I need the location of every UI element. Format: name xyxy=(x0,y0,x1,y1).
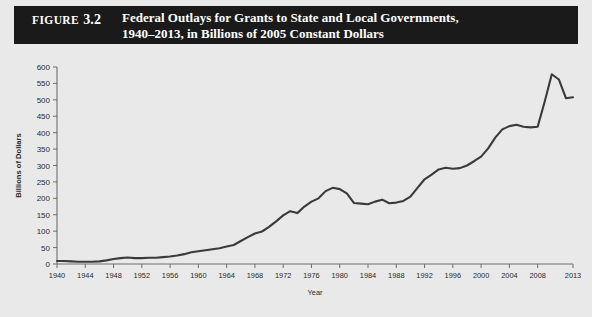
x-tick-label: 1968 xyxy=(247,271,263,280)
figure-number: 3.2 xyxy=(83,12,101,27)
x-tick-label: 1944 xyxy=(77,271,93,280)
x-tick-label: 1972 xyxy=(275,271,291,280)
y-tick-label: 200 xyxy=(37,194,51,203)
x-tick-label: 1984 xyxy=(360,271,376,280)
y-tick-label: 150 xyxy=(37,211,51,220)
y-tick-label: 550 xyxy=(37,79,51,88)
line-chart: 050100150200250300350400450500550600 194… xyxy=(0,44,592,317)
y-tick-label: 500 xyxy=(37,96,51,105)
x-tick-label: 1956 xyxy=(162,271,178,280)
x-tick-label: 1940 xyxy=(49,271,65,280)
x-tick-label: 1980 xyxy=(332,271,348,280)
x-tick-label: 2013 xyxy=(565,271,581,280)
y-tick-label: 0 xyxy=(46,260,51,269)
figure-page: Figure3.2 Federal Outlays for Grants to … xyxy=(0,0,592,317)
x-tick-label: 1976 xyxy=(303,271,319,280)
y-tick-label: 350 xyxy=(37,145,51,154)
y-axis-ticks: 050100150200250300350400450500550600 xyxy=(37,63,57,269)
x-axis-ticks: 1940194419481952195619601964196819721976… xyxy=(49,264,581,280)
figure-label: Figure3.2 xyxy=(32,12,101,28)
x-tick-label: 1964 xyxy=(218,271,234,280)
y-tick-label: 50 xyxy=(41,244,50,253)
figure-title-line-2: 1940–2013, in Billions of 2005 Constant … xyxy=(122,26,570,42)
x-tick-label: 1960 xyxy=(190,271,206,280)
x-tick-label: 1948 xyxy=(105,271,121,280)
y-tick-label: 450 xyxy=(37,112,51,121)
x-tick-label: 1996 xyxy=(445,271,461,280)
x-tick-label: 2008 xyxy=(529,271,545,280)
x-axis-title: Year xyxy=(308,288,323,297)
figure-header-bar: Figure3.2 Federal Outlays for Grants to … xyxy=(14,6,578,44)
figure-title-line-1: Federal Outlays for Grants to State and … xyxy=(122,10,570,26)
x-tick-label: 2004 xyxy=(501,271,517,280)
x-tick-label: 1952 xyxy=(134,271,150,280)
y-tick-label: 100 xyxy=(37,227,51,236)
y-tick-label: 400 xyxy=(37,129,51,138)
x-tick-label: 2000 xyxy=(473,271,489,280)
x-tick-label: 1992 xyxy=(416,271,432,280)
y-tick-label: 600 xyxy=(37,63,51,72)
y-axis-title: Billions of Dollars xyxy=(14,133,23,198)
data-series-line xyxy=(57,74,573,261)
plot-area: 050100150200250300350400450500550600 194… xyxy=(0,44,592,317)
y-tick-label: 300 xyxy=(37,162,51,171)
x-tick-label: 1988 xyxy=(388,271,404,280)
figure-title: Federal Outlays for Grants to State and … xyxy=(122,10,570,41)
figure-label-word: Figure xyxy=(32,14,79,26)
y-tick-label: 250 xyxy=(37,178,51,187)
